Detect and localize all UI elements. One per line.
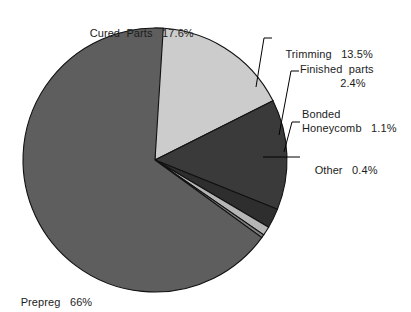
slice-label-prepreg-name: Prepreg (21, 296, 61, 308)
slice-label-finished-parts-value: 2.4% (300, 76, 406, 90)
slice-label-bonded-honeycomb: Bonded Honeycomb 1.1% (302, 107, 410, 135)
slice-label-prepreg-value: 66% (70, 296, 92, 308)
slice-label-finished-parts: Finished parts 2.4% (300, 62, 406, 90)
slice-label-cured-parts: Cured Parts 17.6% (77, 12, 194, 54)
slice-label-bonded-honeycomb-value: 1.1% (371, 122, 396, 134)
slice-label-bonded-honeycomb-name: Honeycomb (302, 122, 362, 134)
slice-label-cured-parts-name: Cured Parts (90, 27, 153, 39)
slice-label-other: Other 0.4% (302, 149, 378, 191)
slice-label-prepreg: Prepreg 66% (8, 281, 92, 312)
slice-label-trimming-name: Trimming (285, 48, 331, 60)
slice-label-trimming-value: 13.5% (341, 48, 373, 60)
slice-label-bonded-honeycomb-line1: Bonded (302, 107, 410, 121)
slice-label-other-name: Other (315, 164, 343, 176)
slice-label-other-value: 0.4% (352, 164, 377, 176)
slice-label-finished-parts-name: Finished parts (300, 62, 406, 76)
slice-label-cured-parts-value: 17.6% (162, 27, 194, 39)
